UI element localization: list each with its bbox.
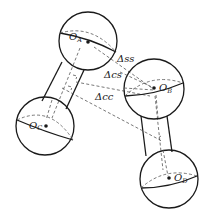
label-o-c: OC [29,120,42,132]
sphere-a: OA [59,12,117,70]
cylinder-b-d [141,96,172,170]
label-delta-ss: Δss [116,53,135,64]
cylinder-a-c [42,48,84,118]
spherocylinder-distance-diagram: OA OC OB OD Δss Δcs Δcc [0,0,212,224]
label-delta-cc: Δcc [94,91,114,102]
center-point-a [86,40,90,44]
center-point-d [167,176,171,180]
center-point-b [152,86,156,90]
label-delta-cs: Δcs [103,69,122,80]
label-o-a: OA [69,31,82,44]
center-point-c [44,124,48,128]
sphere-c: OC [16,97,74,155]
sphere-d: OD [140,150,198,208]
label-o-b: OB [159,82,172,95]
sphere-b: OB [120,59,184,119]
